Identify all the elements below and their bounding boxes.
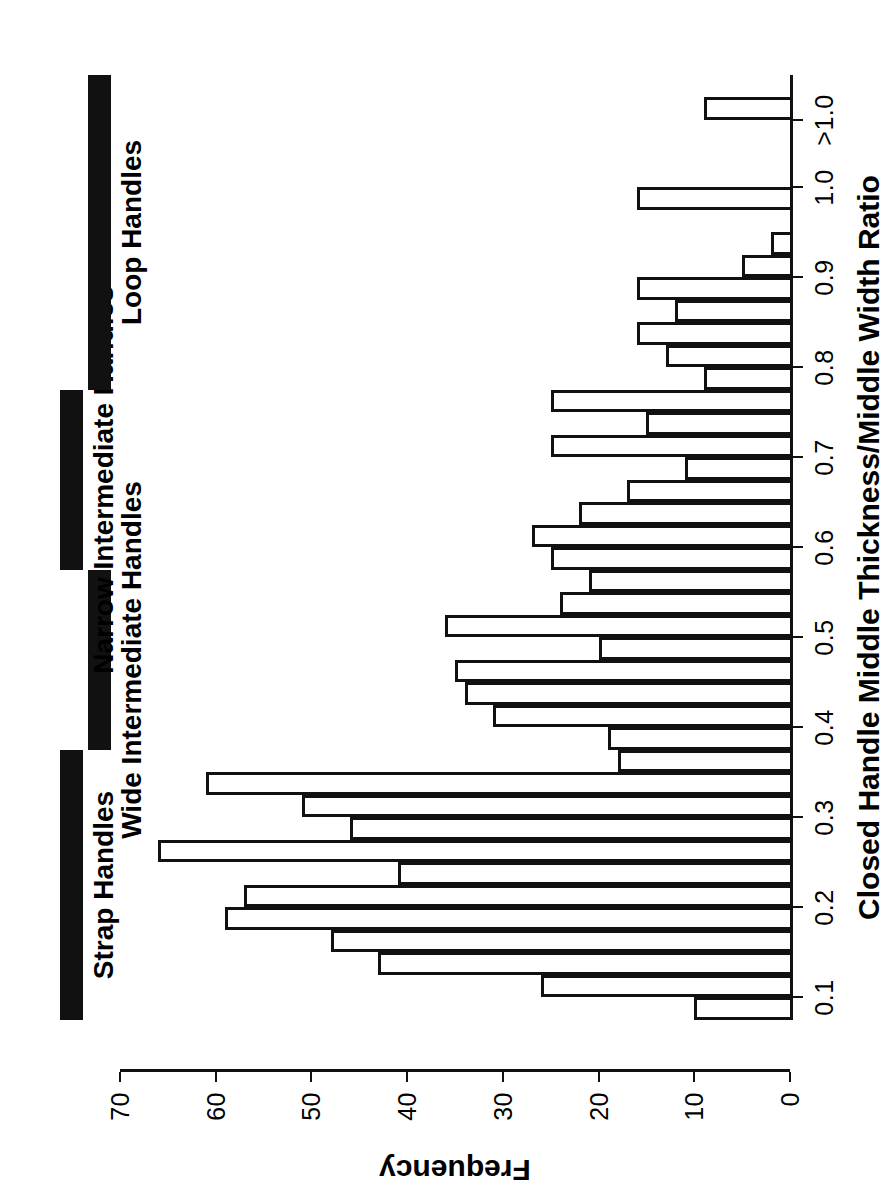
histogram-bar [378, 953, 793, 976]
histogram-bar [465, 683, 793, 706]
histogram-bar [637, 323, 793, 346]
x-axis-tick [793, 817, 803, 819]
histogram-bar [675, 300, 793, 323]
y-axis-line [120, 1069, 790, 1072]
category-band [60, 390, 83, 570]
y-axis-tick-label: 50 [297, 1092, 326, 1121]
histogram-bar [331, 930, 793, 953]
x-axis-tick-label: 0.1 [810, 979, 839, 1015]
x-axis-tick-label: 0.4 [810, 709, 839, 745]
histogram-bar [398, 863, 793, 886]
category-band [88, 75, 111, 390]
histogram-bar [541, 975, 793, 998]
x-axis-tick-label: 0.9 [810, 259, 839, 295]
y-axis-tick-label: 10 [680, 1092, 709, 1121]
histogram-bar [560, 593, 793, 616]
x-axis-tick-label: 0.6 [810, 529, 839, 565]
x-axis-tick [793, 997, 803, 999]
x-axis-tick-label: 0.7 [810, 439, 839, 475]
histogram-bar [599, 638, 793, 661]
y-axis-tick [310, 1072, 312, 1082]
x-axis-tick [793, 277, 803, 279]
y-axis-tick-label: 30 [488, 1092, 517, 1121]
category-band [60, 750, 83, 1020]
histogram-bar [637, 188, 793, 211]
x-axis-tick-label: 0.5 [810, 619, 839, 655]
histogram-bar [646, 413, 793, 436]
y-axis-tick [598, 1072, 600, 1082]
histogram-bar [445, 615, 793, 638]
histogram-bar [302, 795, 793, 818]
histogram-bar [244, 885, 793, 908]
y-axis-tick [789, 1072, 791, 1082]
x-axis-tick-label: 0.2 [810, 889, 839, 925]
y-axis-tick [693, 1072, 695, 1082]
x-axis-tick [793, 637, 803, 639]
histogram-bar [742, 255, 793, 278]
histogram-bar [704, 98, 793, 121]
x-axis-tick [793, 907, 803, 909]
x-axis-tick-label: 0.3 [810, 799, 839, 835]
histogram-bar [608, 728, 793, 751]
histogram-bar [666, 345, 793, 368]
histogram-bar [225, 908, 793, 931]
x-axis-tick [793, 457, 803, 459]
histogram-bar [493, 705, 793, 728]
histogram-bar [206, 773, 793, 796]
histogram-bar [685, 458, 793, 481]
x-axis-tick [793, 727, 803, 729]
histogram-bar [627, 480, 793, 503]
category-band-label: Wide Intermediate Handles [116, 481, 148, 839]
category-band-label: Loop Handles [116, 140, 148, 325]
x-axis-tick-label: 0.8 [810, 349, 839, 385]
histogram-bar [589, 570, 793, 593]
histogram-bar [704, 368, 793, 391]
histogram-bar [532, 525, 793, 548]
histogram-bar [694, 998, 793, 1021]
x-axis-tick [793, 187, 803, 189]
y-axis-tick [119, 1072, 121, 1082]
histogram-bar [618, 750, 793, 773]
y-axis-tick [502, 1072, 504, 1082]
x-axis-tick [793, 367, 803, 369]
y-axis-tick-label: 40 [393, 1092, 422, 1121]
y-axis-tick-label: 20 [584, 1092, 613, 1121]
histogram-bar [551, 435, 793, 458]
histogram-bar [551, 390, 793, 413]
x-axis-title: Closed Handle Middle Thickness/Middle Wi… [852, 175, 886, 920]
histogram-bar [551, 548, 793, 571]
y-axis-tick-label: 0 [776, 1092, 805, 1106]
y-axis-tick-label: 60 [201, 1092, 230, 1121]
histogram-bar [350, 818, 793, 841]
x-axis-tick [793, 547, 803, 549]
y-axis-tick [215, 1072, 217, 1082]
x-axis-tick-label: 1.0 [810, 169, 839, 205]
histogram-bar [158, 840, 793, 863]
histogram-bar [455, 660, 793, 683]
histogram-bar [579, 503, 793, 526]
y-axis-tick-label: 70 [106, 1092, 135, 1121]
y-axis-tick [406, 1072, 408, 1082]
y-axis-title: Frequency [379, 1153, 531, 1184]
x-axis-tick-label: >1.0 [810, 94, 839, 145]
histogram-bar [637, 278, 793, 301]
x-axis-tick [793, 119, 803, 121]
